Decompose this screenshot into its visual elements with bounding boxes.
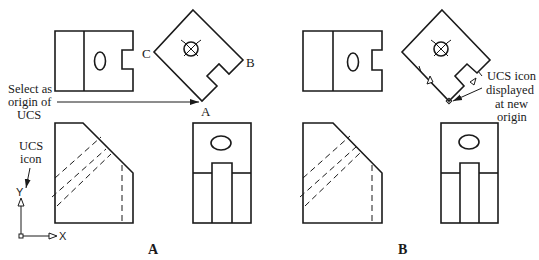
side-view-a xyxy=(193,123,251,223)
svg-text:origin: origin xyxy=(497,110,528,124)
rotated-view-b xyxy=(402,10,490,101)
svg-text:origin of: origin of xyxy=(8,95,52,109)
ucs-icon-rotated xyxy=(419,66,482,104)
side-view-b xyxy=(441,123,498,223)
arrow-icon xyxy=(26,168,30,188)
x-axis-label: X xyxy=(59,230,67,242)
caption-a: A xyxy=(148,242,159,257)
svg-text:displayed: displayed xyxy=(486,83,535,97)
top-view-b xyxy=(303,31,382,91)
svg-text:UCS: UCS xyxy=(17,108,41,122)
vertex-label-b: B xyxy=(246,55,255,70)
vertex-label-a: A xyxy=(201,104,211,119)
rotated-view-a xyxy=(154,10,243,101)
y-axis-label: Y xyxy=(16,186,24,198)
svg-text:at new: at new xyxy=(495,97,528,111)
top-view-a xyxy=(55,31,133,91)
caption-b: B xyxy=(398,242,407,257)
svg-text:UCS: UCS xyxy=(19,139,43,153)
front-view-b xyxy=(300,123,382,223)
panel-a: C B A Select as origin of UCS UC xyxy=(8,10,255,257)
callout-new-origin: UCS icon displayed at new origin xyxy=(453,69,537,124)
ucs-diagram: C B A Select as origin of UCS UC xyxy=(0,0,539,260)
panel-b: UCS icon displayed at new origin B xyxy=(300,10,537,257)
svg-text:Select as: Select as xyxy=(8,82,52,96)
arrow-icon xyxy=(453,88,482,101)
callout-ucs-icon: UCS icon xyxy=(19,139,43,188)
ucs-axes-icon: Y X xyxy=(16,186,67,242)
svg-text:icon: icon xyxy=(20,152,42,166)
front-view-a xyxy=(52,123,133,223)
callout-select-origin: Select as origin of UCS xyxy=(8,82,199,122)
vertex-label-c: C xyxy=(142,46,151,61)
svg-text:UCS icon: UCS icon xyxy=(487,69,537,83)
